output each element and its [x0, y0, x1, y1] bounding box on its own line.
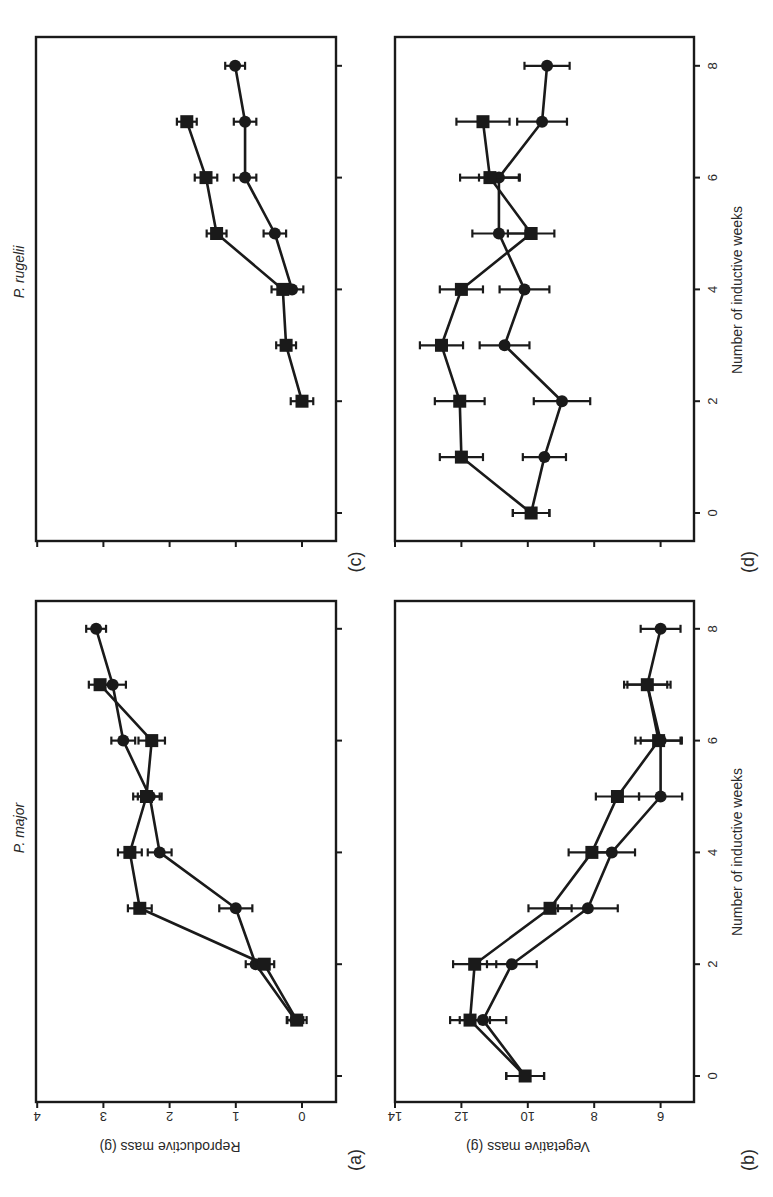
- x-tick-label: 4: [705, 286, 720, 293]
- square-marker-icon: [464, 1014, 477, 1027]
- x-tick-label: 0: [705, 1072, 720, 1079]
- y-tick-label: 1: [232, 1109, 239, 1124]
- circle-marker-icon: [538, 451, 550, 463]
- x-axis-title-top: Number of inductive weeks: [729, 206, 745, 374]
- plot-series: [86, 60, 682, 1083]
- y-axis-title-reproductive: Reproductive mass (g): [100, 1139, 241, 1155]
- square-marker-icon: [544, 902, 557, 915]
- square-marker-icon: [468, 958, 481, 971]
- square-marker-icon: [453, 395, 466, 408]
- square-marker-icon: [290, 1014, 303, 1027]
- circle-marker-icon: [239, 172, 251, 184]
- square-marker-icon: [276, 283, 289, 296]
- squares-series-line: [470, 685, 659, 1076]
- square-marker-icon: [455, 451, 468, 464]
- panel-b-plot: [450, 623, 682, 1083]
- panel-a-frame: [36, 601, 336, 1102]
- circle-marker-icon: [518, 283, 530, 295]
- square-marker-icon: [435, 339, 448, 352]
- square-marker-icon: [483, 171, 496, 184]
- panel-label-d: (d): [738, 551, 758, 573]
- square-marker-icon: [180, 115, 193, 128]
- circle-marker-icon: [536, 116, 548, 128]
- square-marker-icon: [140, 790, 153, 803]
- square-marker-icon: [123, 846, 136, 859]
- square-marker-icon: [652, 734, 665, 747]
- circle-marker-icon: [229, 60, 241, 72]
- circle-marker-icon: [655, 791, 667, 803]
- square-marker-icon: [280, 339, 293, 352]
- panel-label-c: (c): [345, 552, 365, 573]
- panel-title-p-major: P. major: [11, 802, 27, 854]
- square-marker-icon: [455, 283, 468, 296]
- circle-marker-icon: [117, 735, 129, 747]
- x-tick-labels: 0246802468: [705, 62, 720, 1079]
- circle-marker-icon: [499, 339, 511, 351]
- circle-marker-icon: [239, 116, 251, 128]
- circle-marker-icon: [154, 846, 166, 858]
- y-tick-label: 10: [521, 1109, 535, 1124]
- y-tick-label: 4: [34, 1109, 41, 1124]
- x-tick-label: 8: [705, 62, 720, 69]
- axis-ticks: [37, 66, 700, 1108]
- panel-label-a: (a): [345, 1149, 365, 1171]
- circle-marker-icon: [493, 228, 505, 240]
- figure-canvas: P. rugelii P. major 0246802468 Number of…: [0, 0, 773, 1197]
- square-marker-icon: [133, 902, 146, 915]
- panel-a-plot: [86, 623, 306, 1027]
- square-marker-icon: [585, 846, 598, 859]
- panel-d-plot: [420, 60, 590, 520]
- square-marker-icon: [476, 115, 489, 128]
- square-marker-icon: [94, 678, 107, 691]
- circle-marker-icon: [90, 623, 102, 635]
- y-tick-label: 2: [166, 1109, 173, 1124]
- circle-marker-icon: [269, 228, 281, 240]
- square-marker-icon: [200, 171, 213, 184]
- circle-marker-icon: [582, 902, 594, 914]
- square-marker-icon: [210, 227, 223, 240]
- y-tick-label: 12: [454, 1109, 468, 1124]
- circle-marker-icon: [556, 395, 568, 407]
- circle-marker-icon: [506, 958, 518, 970]
- y-tick-label: 14: [388, 1109, 402, 1124]
- circle-marker-icon: [541, 60, 553, 72]
- y-tick-labels: 4321014121086: [34, 1109, 665, 1124]
- x-tick-label: 0: [705, 509, 720, 516]
- square-marker-icon: [519, 1070, 532, 1083]
- square-marker-icon: [145, 734, 158, 747]
- circle-marker-icon: [230, 902, 242, 914]
- panel-title-p-rugelii: P. rugelii: [11, 245, 27, 299]
- square-marker-icon: [258, 958, 271, 971]
- y-tick-label: 3: [100, 1109, 107, 1124]
- circle-marker-icon: [655, 623, 667, 635]
- panel-label-b: (b): [738, 1149, 758, 1171]
- x-tick-label: 6: [705, 737, 720, 744]
- x-tick-label: 4: [705, 849, 720, 856]
- x-axis-title-bottom: Number of inductive weeks: [729, 768, 745, 936]
- square-marker-icon: [641, 678, 654, 691]
- square-marker-icon: [296, 395, 309, 408]
- y-tick-label: 8: [591, 1109, 598, 1124]
- square-marker-icon: [611, 790, 624, 803]
- y-tick-label: 6: [657, 1109, 664, 1124]
- y-axis-title-vegetative: Vegetative mass (g): [466, 1139, 590, 1155]
- y-tick-label: 0: [298, 1109, 305, 1124]
- square-marker-icon: [525, 227, 538, 240]
- square-marker-icon: [525, 507, 538, 520]
- panel-c-plot: [177, 60, 313, 408]
- x-tick-label: 8: [705, 625, 720, 632]
- x-tick-label: 2: [705, 398, 720, 405]
- x-tick-label: 6: [705, 174, 720, 181]
- x-tick-label: 2: [705, 961, 720, 968]
